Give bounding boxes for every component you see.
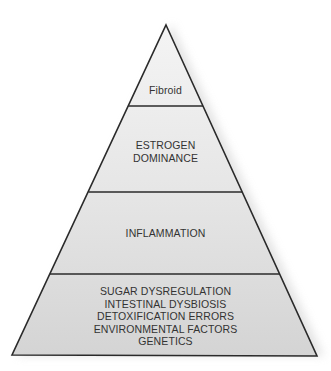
root-cause-genetics: GENETICS	[0, 335, 331, 348]
root-cause-environmental-factors: ENVIRONMENTAL FACTORS	[0, 323, 331, 336]
level-estrogen-line-2: DOMINANCE	[0, 152, 331, 165]
level-estrogen-dominance: ESTROGEN DOMINANCE	[0, 139, 331, 164]
root-cause-intestinal-dysbiosis: INTESTINAL DYSBIOSIS	[0, 298, 331, 311]
level-root-causes: SUGAR DYSREGULATION INTESTINAL DYSBIOSIS…	[0, 285, 331, 348]
level-fibroid: Fibroid	[0, 84, 331, 97]
root-cause-sugar-dysregulation: SUGAR DYSREGULATION	[0, 285, 331, 298]
level-inflammation-line-1: INFLAMMATION	[0, 227, 331, 240]
root-cause-detoxification-errors: DETOXIFICATION ERRORS	[0, 310, 331, 323]
level-estrogen-line-1: ESTROGEN	[0, 139, 331, 152]
level-inflammation: INFLAMMATION	[0, 227, 331, 240]
level-fibroid-line-1: Fibroid	[0, 84, 331, 97]
